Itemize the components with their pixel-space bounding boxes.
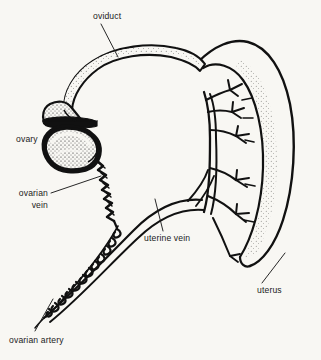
ovarian-vein-vessel [96, 160, 117, 228]
label-ovarian-vein-line1: ovarian [0, 188, 48, 199]
oviduct-structure [42, 45, 205, 128]
label-ovarian-vein-line2: vein [0, 200, 48, 211]
uterus-structure [198, 38, 301, 268]
label-uterine-vein: uterine vein [144, 233, 190, 244]
anatomy-figure: oviduct ovary ovarian vein uterine vein … [0, 0, 321, 360]
leader-uterine-vein [155, 199, 163, 231]
leader-uterus [262, 253, 285, 283]
label-oviduct: oviduct [93, 11, 121, 22]
uterine-vein-vessel [44, 170, 214, 322]
anatomy-drawing [0, 0, 321, 360]
leader-ovarian-vein [51, 176, 101, 193]
uterine-vessel-tree [204, 80, 255, 262]
label-uterus: uterus [257, 285, 282, 296]
ovarian-artery-vessel [35, 226, 121, 328]
label-ovary: ovary [16, 134, 38, 145]
label-ovarian-artery: ovarian artery [9, 335, 64, 346]
ovary-structure [43, 126, 101, 172]
